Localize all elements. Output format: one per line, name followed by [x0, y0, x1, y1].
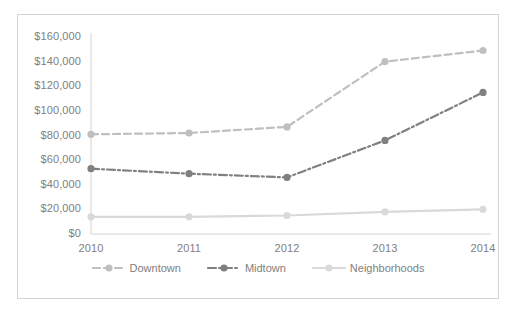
x-axis-tick-label: 2013: [355, 242, 415, 254]
y-axis-tick-label: $120,000: [18, 79, 81, 91]
legend-swatch-downtown: [92, 262, 126, 274]
legend-swatch-midtown: [207, 262, 241, 274]
data-point: [479, 47, 486, 54]
data-point: [283, 212, 290, 219]
legend-label: Downtown: [130, 262, 181, 274]
data-point: [381, 58, 388, 65]
y-axis-tick-label: $80,000: [18, 129, 81, 141]
series-line-midtown: [91, 92, 483, 177]
y-axis-tick-label: $100,000: [18, 104, 81, 116]
legend-item-neighborhoods[interactable]: Neighborhoods: [312, 262, 425, 274]
data-point: [381, 208, 388, 215]
legend-label: Neighborhoods: [350, 262, 425, 274]
chart-container: $160,000$140,000$120,000$100,000$80,000$…: [17, 14, 499, 299]
y-axis-tick-label: $140,000: [18, 55, 81, 67]
line-chart-plot: [18, 15, 498, 298]
data-point: [185, 129, 192, 136]
x-axis-tick-label: 2010: [61, 242, 121, 254]
y-axis-tick-label: $20,000: [18, 202, 81, 214]
x-axis-tick-label: 2011: [159, 242, 219, 254]
data-point: [185, 170, 192, 177]
legend-label: Midtown: [245, 262, 286, 274]
chart-legend: DowntownMidtownNeighborhoods: [0, 262, 516, 274]
x-axis-tick-label: 2012: [257, 242, 317, 254]
legend-swatch-neighborhoods: [312, 262, 346, 274]
data-point: [479, 89, 486, 96]
y-axis-tick-label: $0: [18, 227, 81, 239]
data-point: [381, 137, 388, 144]
y-axis-tick-label: $60,000: [18, 153, 81, 165]
data-point: [87, 131, 94, 138]
data-point: [87, 165, 94, 172]
y-axis-tick-label: $160,000: [18, 30, 81, 42]
legend-item-downtown[interactable]: Downtown: [92, 262, 181, 274]
data-point: [185, 213, 192, 220]
x-axis-tick-label: 2014: [453, 242, 513, 254]
data-point: [479, 206, 486, 213]
data-point: [283, 123, 290, 130]
legend-item-midtown[interactable]: Midtown: [207, 262, 286, 274]
y-axis-tick-label: $40,000: [18, 178, 81, 190]
data-point: [87, 213, 94, 220]
data-point: [283, 174, 290, 181]
